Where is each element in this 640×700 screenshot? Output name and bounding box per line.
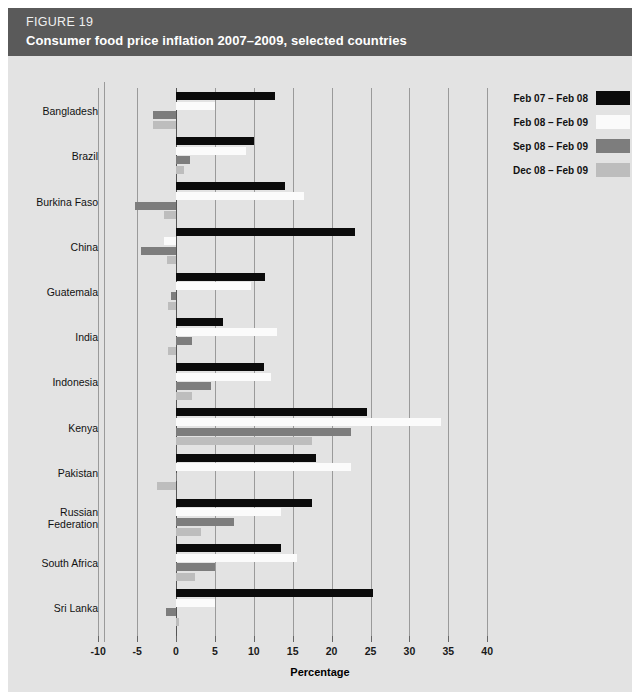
bar — [176, 408, 367, 416]
bar — [176, 137, 254, 145]
bar — [171, 292, 176, 300]
bar — [176, 618, 179, 626]
gridline--10 — [98, 88, 99, 636]
x-tick-35 — [448, 636, 449, 642]
bar — [176, 382, 211, 390]
category-label: Burkina Faso — [36, 196, 98, 208]
legend-label: Sep 08 – Feb 09 — [513, 141, 588, 152]
bar — [167, 256, 176, 264]
bar — [176, 373, 271, 381]
gridline--5 — [137, 88, 138, 636]
bar — [135, 202, 176, 210]
chart-legend: Feb 07 – Feb 08Feb 08 – Feb 09Sep 08 – F… — [500, 86, 630, 182]
x-tick-label-15: 15 — [287, 645, 299, 657]
axis-left-rule — [104, 82, 105, 642]
bar — [176, 182, 285, 190]
category-label: Pakistan — [58, 467, 98, 479]
bar — [164, 211, 176, 219]
category-label: India — [75, 331, 98, 343]
bar — [176, 192, 304, 200]
category-label: Kenya — [68, 422, 98, 434]
x-tick-40 — [487, 636, 488, 642]
bar — [168, 302, 176, 310]
bar — [176, 563, 215, 571]
figure-container: FIGURE 19 Consumer food price inflation … — [0, 0, 640, 700]
category-label: China — [71, 241, 98, 253]
bar — [176, 102, 215, 110]
legend-item[interactable]: Dec 08 – Feb 09 — [500, 158, 630, 182]
legend-swatch — [596, 91, 630, 105]
bar — [176, 337, 192, 345]
bar — [168, 347, 176, 355]
x-tick-label-35: 35 — [442, 645, 454, 657]
bar — [176, 599, 215, 607]
bar — [176, 328, 277, 336]
x-tick--5 — [137, 636, 138, 642]
bar — [176, 273, 265, 281]
legend-label: Dec 08 – Feb 09 — [513, 165, 588, 176]
x-tick-label-40: 40 — [481, 645, 493, 657]
x-axis-label: Percentage — [8, 666, 632, 678]
bar — [166, 608, 176, 616]
x-tick-15 — [293, 636, 294, 642]
bar — [176, 499, 312, 507]
x-tick-20 — [332, 636, 333, 642]
bar — [176, 147, 246, 155]
gridline-40 — [487, 88, 488, 636]
bar — [176, 589, 373, 597]
x-tick-label-5: 5 — [212, 645, 218, 657]
category-label: Bangladesh — [43, 105, 98, 117]
bar — [176, 156, 190, 164]
bar — [176, 92, 275, 100]
legend-item[interactable]: Feb 08 – Feb 09 — [500, 110, 630, 134]
x-tick-10 — [254, 636, 255, 642]
legend-swatch — [596, 115, 630, 129]
bar — [153, 121, 176, 129]
bar — [176, 573, 195, 581]
bar — [176, 554, 297, 562]
x-tick-label--5: -5 — [132, 645, 141, 657]
bar — [176, 463, 351, 471]
category-label: Guatemala — [47, 286, 98, 298]
figure-title: Consumer food price inflation 2007–2009,… — [26, 31, 632, 50]
gridline-30 — [409, 88, 410, 636]
bar — [176, 473, 177, 481]
gridline-25 — [371, 88, 372, 636]
bar — [176, 318, 223, 326]
figure-header: FIGURE 19 Consumer food price inflation … — [8, 8, 632, 56]
bar — [176, 508, 281, 516]
x-tick-5 — [215, 636, 216, 642]
category-label: Indonesia — [52, 376, 98, 388]
bar — [176, 528, 201, 536]
x-tick-label--10: -10 — [91, 645, 106, 657]
chart-plot-area: -10-50510152025303540 BangladeshBrazilBu… — [8, 56, 632, 692]
bar — [176, 282, 251, 290]
x-tick-30 — [409, 636, 410, 642]
legend-label: Feb 07 – Feb 08 — [514, 93, 588, 104]
category-label: Brazil — [72, 150, 98, 162]
x-tick-0 — [176, 636, 177, 642]
bar — [176, 544, 281, 552]
legend-item[interactable]: Sep 08 – Feb 09 — [500, 134, 630, 158]
legend-swatch — [596, 139, 630, 153]
x-tick-25 — [371, 636, 372, 642]
category-label: Russian Federation — [48, 506, 98, 530]
x-tick-label-30: 30 — [404, 645, 416, 657]
x-tick-label-10: 10 — [248, 645, 260, 657]
bar — [176, 392, 192, 400]
bar — [176, 437, 312, 445]
bar — [141, 247, 176, 255]
bar — [153, 111, 176, 119]
bar — [176, 363, 264, 371]
legend-item[interactable]: Feb 07 – Feb 08 — [500, 86, 630, 110]
bar — [164, 237, 176, 245]
bar — [176, 454, 316, 462]
figure-number: FIGURE 19 — [26, 14, 632, 31]
legend-label: Feb 08 – Feb 09 — [514, 117, 588, 128]
x-tick-label-25: 25 — [365, 645, 377, 657]
bar — [176, 428, 351, 436]
category-label: Sri Lanka — [54, 602, 98, 614]
legend-swatch — [596, 163, 630, 177]
x-tick-label-0: 0 — [173, 645, 179, 657]
x-tick-label-20: 20 — [326, 645, 338, 657]
